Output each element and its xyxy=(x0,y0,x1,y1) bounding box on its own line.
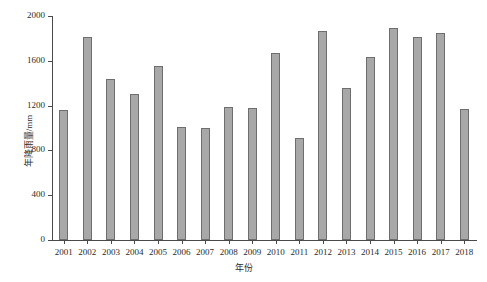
bar-2011 xyxy=(295,138,304,240)
y-tick-1200: 1200 xyxy=(0,106,52,107)
y-tick-800: 800 xyxy=(0,150,52,151)
x-tick-mark xyxy=(299,240,300,244)
x-tick-mark xyxy=(417,240,418,244)
x-axis-line xyxy=(52,240,477,241)
x-tick-mark xyxy=(276,240,277,244)
bar-2002 xyxy=(83,37,92,240)
x-tick-label: 2018 xyxy=(450,246,478,258)
x-tick-mark xyxy=(205,240,206,244)
x-tick-mark xyxy=(134,240,135,244)
y-tick-label: 1600 xyxy=(27,54,45,67)
y-tick-label: 0 xyxy=(41,233,46,246)
bar-chart: 年降雨量/mm 0400800120016002000 200120022003… xyxy=(0,0,487,282)
bar-2016 xyxy=(413,37,422,240)
bar-2003 xyxy=(106,79,115,240)
y-tick-2000: 2000 xyxy=(0,16,52,17)
x-tick-mark xyxy=(111,240,112,244)
y-tick-label: 400 xyxy=(32,188,46,201)
plot-area xyxy=(52,16,476,240)
x-tick-mark xyxy=(441,240,442,244)
x-tick-mark xyxy=(323,240,324,244)
bar-2001 xyxy=(59,110,68,240)
y-tick-label: 2000 xyxy=(27,9,45,22)
y-tick-1600: 1600 xyxy=(0,61,52,62)
bar-2009 xyxy=(248,108,257,240)
x-tick-mark xyxy=(252,240,253,244)
x-tick-mark xyxy=(229,240,230,244)
bar-2007 xyxy=(201,128,210,240)
bar-2006 xyxy=(177,127,186,240)
x-axis-title: 年份 xyxy=(0,261,487,274)
x-tick-mark xyxy=(464,240,465,244)
x-tick-mark xyxy=(346,240,347,244)
y-tick-mark xyxy=(48,240,52,241)
y-tick-label: 800 xyxy=(32,143,46,156)
y-tick-label: 1200 xyxy=(27,99,45,112)
bar-2014 xyxy=(366,57,375,240)
y-tick-0: 0 xyxy=(0,240,52,241)
bar-2017 xyxy=(436,33,445,240)
bar-2005 xyxy=(154,66,163,240)
x-tick-mark xyxy=(370,240,371,244)
bar-2012 xyxy=(318,31,327,240)
y-tick-400: 400 xyxy=(0,195,52,196)
bar-2008 xyxy=(224,107,233,240)
bar-2004 xyxy=(130,94,139,240)
bar-2013 xyxy=(342,88,351,240)
bar-2018 xyxy=(460,109,469,240)
x-tick-mark xyxy=(64,240,65,244)
bar-2010 xyxy=(271,53,280,240)
x-tick-mark xyxy=(182,240,183,244)
bar-2015 xyxy=(389,28,398,240)
x-tick-mark xyxy=(87,240,88,244)
x-tick-mark xyxy=(158,240,159,244)
x-tick-mark xyxy=(394,240,395,244)
y-axis-title: 年降雨量/mm xyxy=(22,115,35,168)
